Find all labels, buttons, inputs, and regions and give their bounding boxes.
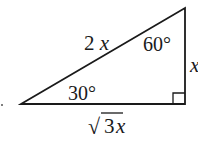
- angle-left-label: 30°: [68, 82, 96, 104]
- long-leg-label: √ 3 x: [88, 113, 126, 139]
- triangle-diagram: 2 x 60° x 30° √ 3 x: [0, 0, 198, 143]
- radicand: 3: [104, 114, 115, 138]
- right-angle-marker: [173, 93, 185, 104]
- radical-sign: √: [88, 114, 101, 139]
- triangle: [21, 8, 185, 104]
- angle-top-label: 60°: [143, 33, 171, 55]
- long-leg-variable: x: [115, 114, 126, 138]
- short-leg-label: x: [189, 53, 198, 77]
- left-edge-mark: [1, 104, 3, 106]
- hypotenuse-label: 2 x: [84, 31, 110, 55]
